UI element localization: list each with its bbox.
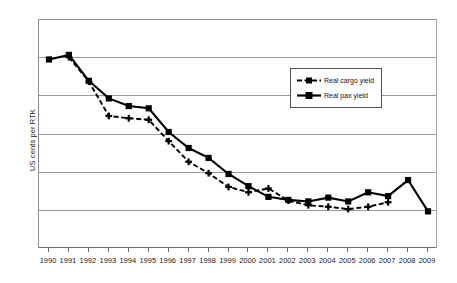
data-point-marker — [207, 170, 209, 177]
x-axis-tick — [347, 248, 348, 252]
data-point-marker — [267, 185, 269, 192]
x-axis-tick — [327, 248, 328, 252]
x-axis-tick — [68, 248, 69, 252]
x-axis-tick — [108, 248, 109, 252]
data-point-marker — [186, 145, 192, 151]
data-point-marker — [66, 52, 72, 58]
x-axis-tick — [367, 248, 368, 252]
plot-area — [38, 19, 437, 248]
x-axis-tick — [188, 248, 189, 252]
legend-item-pax: Real pax yield — [296, 88, 376, 103]
series-layer — [39, 19, 438, 248]
data-point-marker — [425, 208, 431, 214]
data-point-marker — [385, 193, 391, 199]
data-point-marker — [128, 115, 130, 122]
data-point-marker — [205, 155, 211, 161]
legend-marker-dashed-cross-icon — [296, 75, 322, 86]
x-axis-label: 2009 — [410, 255, 444, 267]
data-point-marker — [305, 198, 311, 204]
data-point-marker — [367, 203, 369, 210]
legend-marker-solid-square-icon — [296, 90, 322, 101]
x-axis-ticks — [38, 248, 437, 253]
data-point-marker — [387, 199, 389, 206]
data-point-marker — [46, 56, 52, 62]
x-axis-tick — [168, 248, 169, 252]
data-point-marker — [327, 203, 329, 210]
x-axis-tick — [427, 248, 428, 252]
data-point-marker — [148, 116, 150, 123]
data-point-marker — [126, 103, 132, 109]
data-point-marker — [265, 194, 271, 200]
data-point-marker — [188, 158, 190, 165]
legend-item-cargo: Real cargo yield — [296, 73, 376, 88]
data-point-marker — [86, 78, 92, 84]
legend-label-cargo: Real cargo yield — [322, 75, 374, 86]
x-axis-tick — [208, 248, 209, 252]
data-point-marker — [247, 189, 249, 196]
data-point-marker — [225, 171, 231, 177]
x-axis-labels: 1990199119921993199419951996199719981999… — [38, 255, 437, 269]
data-point-marker — [166, 129, 172, 135]
x-axis-tick — [387, 248, 388, 252]
chart-legend: Real cargo yield Real pax yield — [290, 68, 382, 108]
x-axis-tick — [48, 248, 49, 252]
x-axis-tick — [128, 248, 129, 252]
x-axis-tick — [228, 248, 229, 252]
data-point-marker — [106, 95, 112, 101]
x-axis-tick — [267, 248, 268, 252]
data-point-marker — [325, 195, 331, 201]
x-axis-tick — [88, 248, 89, 252]
data-point-marker — [405, 177, 411, 183]
data-point-marker — [347, 206, 349, 213]
x-axis-tick — [148, 248, 149, 252]
data-point-marker — [285, 197, 291, 203]
data-point-marker — [365, 189, 371, 195]
data-point-marker — [227, 184, 229, 191]
data-point-marker — [108, 113, 110, 120]
chart-container: US cents per RTK 19901991199219931994199… — [0, 0, 457, 283]
x-axis-tick — [307, 248, 308, 252]
data-point-marker — [345, 198, 351, 204]
x-axis-tick — [407, 248, 408, 252]
x-axis-tick — [287, 248, 288, 252]
x-axis-tick — [247, 248, 248, 252]
data-point-marker — [245, 183, 251, 189]
legend-label-pax: Real pax yield — [322, 90, 368, 101]
data-point-marker — [168, 138, 170, 145]
data-point-marker — [146, 105, 152, 111]
